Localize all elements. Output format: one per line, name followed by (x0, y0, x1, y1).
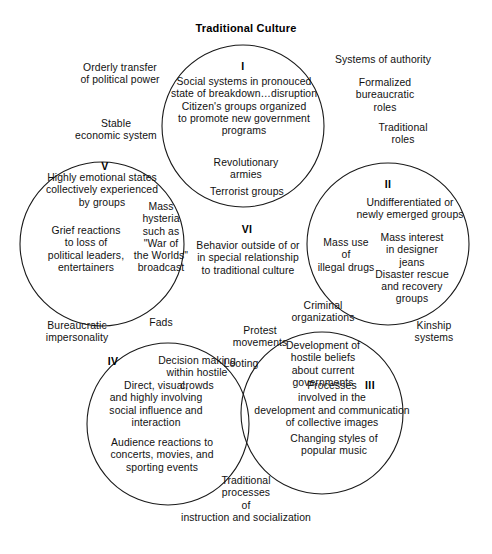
outside-label-orderly-transfer: Orderly transfer of political power (52, 62, 188, 87)
overlap-one-two-terrorist-label: Terrorist groups (188, 186, 306, 198)
overlap-two-three-label: Mass use of illegal drugs (300, 237, 392, 274)
numeral-four: IV (88, 355, 138, 367)
overlap-fads-label: Fads (130, 317, 192, 329)
outside-label-traditional-processes: Traditional processes of instruction and… (146, 475, 346, 524)
circle-three-extra-content: Changing styles of popular music (268, 433, 400, 458)
venn-diagram-page: Traditional Culture I II III IV V VI Soc… (0, 0, 492, 554)
outside-label-formalized-bureaucratic-roles: Formalized bureaucratic roles (330, 77, 440, 114)
numeral-one: I (213, 60, 273, 72)
outside-label-systems-of-authority: Systems of authority (312, 54, 454, 66)
circle-four-content: Direct, visual, and highly involving soc… (78, 380, 234, 429)
circle-three-content: Processes involved in the development an… (244, 380, 420, 429)
region-six-content: Behavior outside of or in special relati… (186, 240, 310, 277)
overlap-criminal-organizations-label: Criminal organizations (265, 300, 381, 325)
circle-four-extra-content: Audience reactions to concerts, movies, … (86, 437, 238, 474)
numeral-six: VI (222, 223, 272, 235)
circle-two-content: Undifferentiated or newly emerged groups (330, 197, 490, 222)
overlap-one-two-label: Revolutionary armies (192, 157, 300, 182)
overlap-five-one-label: Mass hysteria such as "War of the Worlds… (128, 201, 194, 275)
page-title: Traditional Culture (0, 22, 492, 34)
outside-label-bureaucratic-impersonality: Bureaucratic impersonality (16, 320, 138, 345)
outside-label-stable-economic-system: Stable economic system (48, 118, 184, 143)
numeral-two: II (358, 178, 418, 190)
numeral-five: V (75, 160, 135, 172)
outside-label-kinship-systems: Kinship systems (388, 320, 480, 345)
outside-label-traditional-roles: Traditional roles (352, 122, 454, 147)
